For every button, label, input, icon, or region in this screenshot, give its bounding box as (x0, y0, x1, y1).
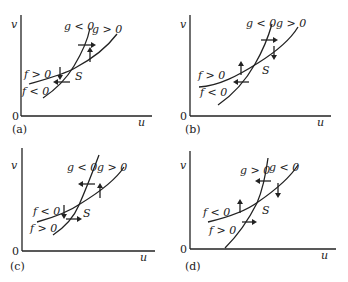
origin-label: 0 (12, 110, 19, 123)
g-left-label: g > 0 (240, 164, 270, 177)
panel-b: v u 0 (b) f > 0 f < 0 g < 0 g > 0 S (174, 0, 348, 141)
f-lower-label: f < 0 (199, 86, 227, 99)
f-upper-label: f > 0 (197, 69, 225, 82)
f-upper-label: f < 0 (32, 205, 60, 218)
u-axis-label: u (140, 251, 147, 264)
origin-label: 0 (180, 110, 187, 123)
f-upper-label: f > 0 (23, 68, 51, 81)
g-right-label: g > 0 (92, 23, 122, 36)
panel-caption: (d) (185, 260, 201, 273)
g-right-label: g > 0 (276, 17, 306, 30)
panel-d: v u 0 (d) f < 0 f > 0 g > 0 g < 0 S (174, 141, 348, 282)
f-upper-label: f < 0 (202, 206, 230, 219)
g-right-label: g > 0 (97, 161, 127, 174)
panel-caption: (b) (185, 123, 201, 136)
panel-c: v u 0 (c) f < 0 f > 0 g < 0 g > 0 S (0, 141, 174, 282)
equilibrium-s-label: S (83, 207, 91, 220)
f-lower-label: f > 0 (208, 224, 236, 237)
equilibrium-s-label: S (262, 204, 270, 217)
panel-a: v u 0 (a) f > 0 f < 0 g < 0 g > 0 S (0, 0, 174, 141)
panel-caption: (a) (12, 123, 27, 136)
f-lower-label: f < 0 (21, 85, 49, 98)
origin-label: 0 (180, 243, 187, 256)
equilibrium-s-label: S (262, 64, 270, 77)
equilibrium-s-label: S (75, 70, 83, 83)
v-axis-label: v (11, 18, 18, 31)
u-axis-label: u (138, 116, 145, 129)
v-axis-label: v (11, 159, 18, 172)
g-left-label: g < 0 (64, 20, 94, 33)
phase-plane-d: v u 0 (d) f < 0 f > 0 g > 0 g < 0 S (174, 141, 348, 282)
f-lower-label: f > 0 (29, 222, 57, 235)
u-axis-label: u (321, 249, 328, 262)
phase-plane-b: v u 0 (b) f > 0 f < 0 g < 0 g > 0 S (174, 0, 348, 141)
origin-label: 0 (12, 245, 19, 258)
g-right-label: g < 0 (269, 161, 299, 174)
phase-plane-c: v u 0 (c) f < 0 f > 0 g < 0 g > 0 S (0, 141, 174, 282)
g-left-label: g < 0 (67, 161, 97, 174)
v-axis-label: v (180, 159, 187, 172)
panel-caption: (c) (10, 260, 25, 273)
v-axis-label: v (180, 18, 187, 31)
phase-plane-a: v u 0 (a) f > 0 f < 0 g < 0 g > 0 S (0, 0, 174, 141)
g-left-label: g < 0 (246, 17, 276, 30)
u-axis-label: u (317, 116, 324, 129)
